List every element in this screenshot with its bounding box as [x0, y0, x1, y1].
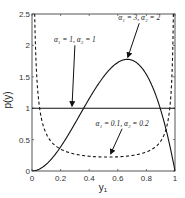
y-tick-label: 1.5: [19, 73, 31, 82]
annotation-arrow-icon: [111, 129, 122, 154]
x-tick-label: 0.8: [141, 174, 153, 183]
x-axis-label: y₁: [99, 182, 108, 193]
series-layer: [32, 0, 175, 171]
x-tick-label: 0.6: [112, 174, 124, 183]
series-line-1: [32, 59, 175, 171]
annotation-label: α₁ = 0.1, α₂ = 0.2: [95, 119, 148, 128]
x-tick-label: 0: [30, 174, 35, 183]
y-tick-label: 2: [26, 41, 31, 50]
y-axis-label: p(y): [2, 91, 13, 108]
x-tick-label: 0.4: [84, 174, 96, 183]
annotation-label: α₁ = 3, α₂ = 2: [118, 13, 160, 22]
y-axis-ticks: 00.511.522.5: [19, 10, 175, 176]
y-tick-label: 0.5: [19, 136, 31, 145]
annotation-arrow-icon: [72, 45, 75, 106]
annotation-label: α₁ = 1, α₂ = 1: [54, 35, 96, 44]
series-line-2: [32, 0, 174, 157]
x-tick-label: 1: [173, 174, 178, 183]
annotation-arrow-icon: [128, 23, 139, 57]
y-tick-label: 2.5: [19, 10, 31, 19]
beta-density-chart: 00.511.522.5 00.20.40.60.81 α₁ = 1, α₂ =…: [0, 0, 185, 198]
x-tick-label: 0.2: [55, 174, 67, 183]
y-tick-label: 1: [26, 104, 31, 113]
